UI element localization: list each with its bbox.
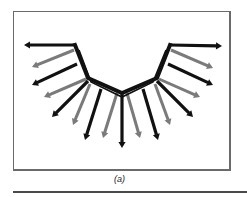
horizontal-divider [13,191,247,193]
black-arrow [24,41,75,48]
gray-arrow [171,50,213,69]
black-arrow [32,64,77,86]
gray-arrow [101,93,117,138]
arrow-shaft [75,84,90,120]
curve-inner-line [79,50,166,97]
black-arrow [170,42,222,49]
black-arrow [143,89,160,140]
arrow-shaft [37,64,77,83]
gray-arrow [127,93,142,138]
figure-panel: (a) [0,0,247,197]
arrow-shaft [171,50,208,66]
gray-arrow [155,84,171,125]
figure-caption: (a) [0,174,247,184]
arrow-shaft [168,64,208,83]
arrow-shaft [143,89,156,135]
arrowhead-icon [118,142,125,148]
arrowhead-icon [24,41,30,48]
arrowhead-icon [216,42,222,49]
arrow-shaft [37,50,74,65]
arrow-shaft [170,45,217,46]
normal-vectors-diagram [0,0,247,197]
arrow-shaft [87,89,101,135]
arrow-shaft [127,93,138,133]
arrowhead-icon [135,131,142,138]
arrow-shaft [105,93,117,133]
gray-arrow [32,50,74,68]
black-arrow [118,94,125,148]
black-arrow [168,64,213,86]
